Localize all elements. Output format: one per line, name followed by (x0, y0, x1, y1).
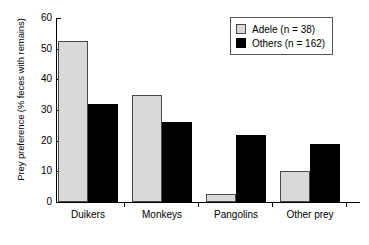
x-axis-tick-mark (198, 203, 199, 207)
x-axis-line (56, 202, 360, 203)
legend-swatch-others-icon (236, 38, 246, 48)
bar (206, 194, 236, 202)
y-axis-title: Prey preference (% feces with remains) (15, 0, 26, 200)
legend-label-adele: Adele (n = 38) (252, 24, 315, 35)
bar (310, 144, 340, 202)
y-axis-tick-label: 10 (28, 165, 52, 176)
bar (236, 135, 266, 202)
chart-legend: Adele (n = 38) Others (n = 162) (230, 17, 333, 55)
y-axis-tick-mark (56, 202, 61, 203)
y-axis-tick-mark (56, 18, 61, 19)
y-axis-tick-label: 50 (28, 43, 52, 54)
bar (58, 41, 88, 202)
y-axis-tick-label: 20 (28, 135, 52, 146)
bar-chart-figure: Prey preference (% feces with remains) 0… (0, 0, 369, 245)
y-axis-tick-label: 40 (28, 73, 52, 84)
bar (132, 95, 162, 202)
bar (162, 122, 192, 202)
legend-label-others: Others (n = 162) (252, 38, 325, 49)
x-axis-tick-mark (124, 203, 125, 207)
bar (88, 104, 118, 202)
bar (280, 171, 310, 202)
y-axis-tick-label: 0 (28, 196, 52, 207)
x-axis-category-label: Other prey (260, 209, 360, 221)
y-axis-tick: 0 (56, 202, 61, 203)
y-axis-tick: 60 (56, 18, 61, 19)
legend-item: Adele (n = 38) (236, 22, 325, 36)
y-axis-tick-label: 30 (28, 104, 52, 115)
y-axis-line (56, 19, 57, 203)
legend-swatch-adele-icon (236, 24, 246, 34)
x-axis-tick-mark (272, 203, 273, 207)
y-axis-tick-label: 60 (28, 12, 52, 23)
legend-item: Others (n = 162) (236, 36, 325, 50)
x-axis-tick-mark (346, 203, 347, 207)
